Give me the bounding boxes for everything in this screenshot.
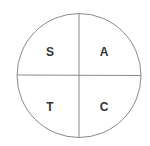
quadrant-label-bottom-right: C <box>100 100 109 114</box>
quadrant-label-top-right: A <box>100 45 109 59</box>
quadrant-label-bottom-left: T <box>46 100 54 114</box>
horizontal-divider <box>17 75 141 76</box>
quadrant-label-top-left: S <box>46 45 54 59</box>
quadrant-diagram: S A T C <box>0 0 150 146</box>
